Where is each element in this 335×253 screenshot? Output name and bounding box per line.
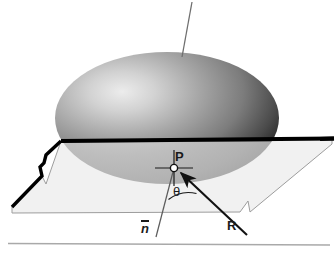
point-p-marker <box>170 164 177 171</box>
label-point-p: P <box>175 150 184 163</box>
label-vector-r: R <box>227 219 236 232</box>
bottom-rule <box>8 244 330 246</box>
label-angle-theta: θ <box>173 185 180 198</box>
geometry-diagram <box>0 0 335 253</box>
axis-line-top <box>182 2 192 57</box>
label-vector-n: n <box>141 220 149 235</box>
intersection-edge <box>61 139 334 142</box>
label-vector-n-symbol: n <box>141 222 149 235</box>
plane-right-edge-cap <box>320 139 334 140</box>
figure-root: P θ R n <box>0 0 335 253</box>
